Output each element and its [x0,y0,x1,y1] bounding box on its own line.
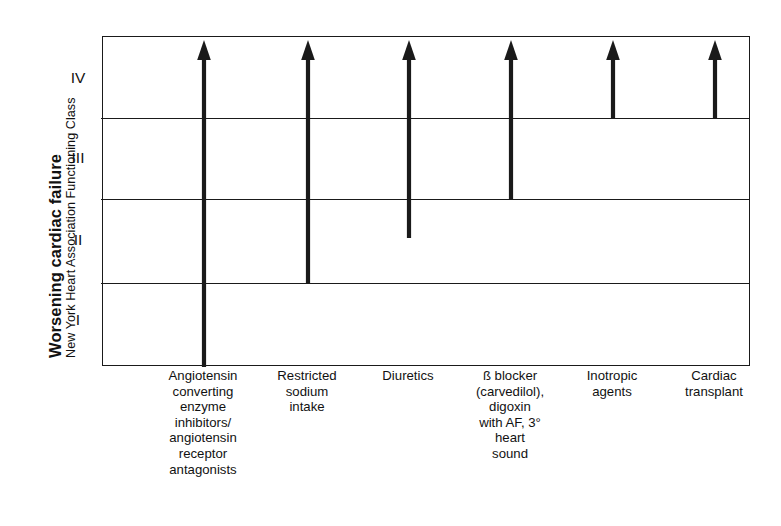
up-arrow [606,40,620,118]
arrow-head-icon [708,40,722,60]
plot-area [102,36,750,366]
y-axis-tick-label: II [60,231,96,249]
x-axis-category-label: Angiotensin converting enzyme inhibitors… [151,368,255,477]
up-arrow [402,40,416,238]
y-axis-tick-label: IV [60,69,96,87]
x-axis-category-label: Diuretics [356,368,460,384]
x-axis-category-label: Restricted sodium intake [255,368,359,415]
arrow-head-icon [504,40,518,60]
up-arrow [708,40,722,118]
figure-root: Worsening cardiac failure New York Heart… [0,0,781,526]
arrow-head-icon [606,40,620,60]
y-axis-tick-labels: IVIIIIII [58,0,96,400]
up-arrow [301,40,315,283]
up-arrow [197,40,211,367]
arrow-head-icon [197,40,211,60]
arrow-group [103,37,751,367]
x-axis-category-label: ß blocker (carvedilol), digoxin with AF,… [458,368,562,462]
y-axis-tick-label: I [60,311,96,329]
y-axis-tick-label: III [60,149,96,167]
arrow-head-icon [301,40,315,60]
x-axis-category-label: Cardiac transplant [662,368,766,399]
x-axis-category-label: Inotropic agents [560,368,664,399]
up-arrow [504,40,518,199]
arrow-head-icon [402,40,416,60]
x-axis-category-labels: Angiotensin converting enzyme inhibitors… [102,368,750,518]
